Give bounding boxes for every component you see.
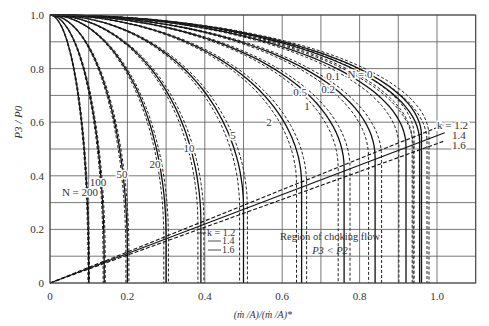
curve-label-n-0-1: 0.1 — [326, 70, 340, 82]
x-tick-label: 0.6 — [275, 290, 289, 302]
choke-line-k-1.4 — [50, 133, 445, 283]
region-choking-label: Region of choking flow — [280, 231, 380, 242]
region-pressure-label: P3 < P2 — [311, 245, 348, 256]
choking-flow-chart: 00.20.40.60.81.000.20.40.60.81.0(ṁ /A)/(… — [0, 0, 489, 326]
y-tick-label: 0.6 — [30, 116, 44, 128]
y-tick-label: 1.0 — [30, 9, 44, 21]
y-axis-label: P3 / P0 — [12, 105, 24, 139]
x-tick-label: 0 — [47, 290, 53, 302]
curve-label-n-1: 1 — [304, 100, 310, 112]
curve-label-n-0: N = 0 — [347, 68, 373, 80]
curve-label-n-0-5: 0.5 — [293, 86, 307, 98]
x-tick-label: 0.8 — [353, 290, 367, 302]
curve-label-n-5: 5 — [230, 129, 236, 141]
chart-canvas: 00.20.40.60.81.000.20.40.60.81.0(ṁ /A)/(… — [0, 0, 489, 326]
curve-label-n-50: 50 — [117, 168, 129, 180]
curve-label-n-0-2: 0.2 — [321, 83, 335, 95]
y-tick-label: 0.2 — [30, 223, 44, 235]
curve-label-n-20: 20 — [150, 158, 162, 170]
curve-label-n-10: 10 — [184, 142, 196, 154]
y-tick-label: 0 — [39, 277, 45, 289]
k-label-left: 1.6 — [222, 244, 235, 255]
x-tick-label: 0.2 — [121, 290, 135, 302]
x-tick-label: 1.0 — [430, 290, 444, 302]
x-axis-label: (ṁ /A)/(ṁ /A)* — [234, 309, 292, 321]
k-label-right: 1.6 — [452, 139, 466, 151]
y-tick-label: 0.8 — [30, 63, 44, 75]
curve-label-n-200: N = 200 — [62, 186, 99, 198]
x-tick-label: 0.4 — [198, 290, 212, 302]
y-tick-label: 0.4 — [30, 170, 44, 182]
curve-label-n-2: 2 — [266, 116, 272, 128]
